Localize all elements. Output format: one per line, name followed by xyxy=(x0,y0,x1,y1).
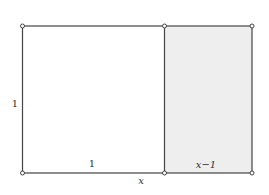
vertex-bottom-left xyxy=(21,171,25,175)
vertex-top-middle xyxy=(163,24,167,28)
vertex-bottom-middle xyxy=(163,171,167,175)
label-total-width: x xyxy=(138,175,144,186)
label-square-bottom: 1 xyxy=(89,158,95,169)
vertex-bottom-right xyxy=(250,171,254,175)
golden-ratio-rectangle-diagram: 1 1 x x−1 xyxy=(0,0,269,195)
vertex-top-right xyxy=(250,24,254,28)
vertex-top-left xyxy=(21,24,25,28)
label-shaded-width: x−1 xyxy=(196,159,216,170)
shaded-rectangle xyxy=(165,26,253,173)
label-left-side: 1 xyxy=(12,98,18,109)
